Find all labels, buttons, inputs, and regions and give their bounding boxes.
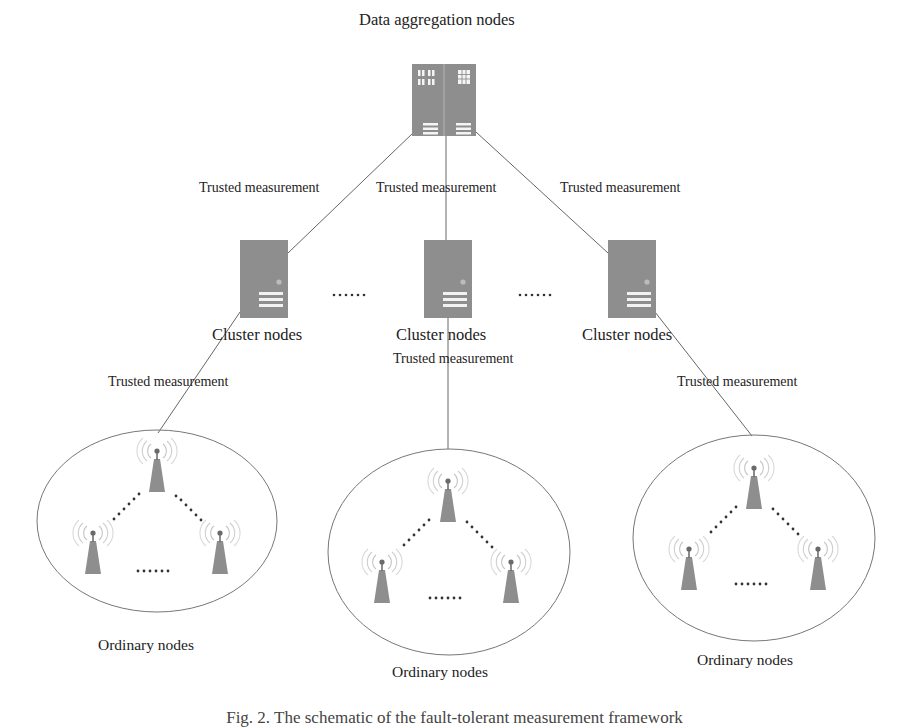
ordinary-label: Ordinary nodes — [697, 651, 793, 669]
tower-icon — [734, 455, 774, 509]
ordinary-label: Ordinary nodes — [392, 663, 488, 681]
cluster-node-icon — [608, 240, 656, 318]
edge-label: Trusted measurement — [376, 180, 496, 196]
cluster-label: Cluster nodes — [396, 325, 486, 345]
cluster-label: Cluster nodes — [212, 325, 302, 345]
edge-label: Trusted measurement — [199, 180, 319, 196]
figure-caption: Fig. 2. The schematic of the fault-toler… — [0, 708, 909, 728]
edge-label: Trusted measurement — [677, 374, 797, 390]
ordinary-nodes-group-3 — [669, 455, 838, 590]
tower-icon — [362, 549, 402, 603]
edge-label: Trusted measurement — [108, 374, 228, 390]
tower-icon — [73, 520, 113, 574]
tower-icon — [428, 468, 468, 522]
tower-icon — [137, 438, 177, 492]
cluster-node-icon — [424, 240, 472, 318]
ordinary-nodes-group-2 — [362, 468, 531, 603]
ordinary-nodes-group-1 — [73, 438, 240, 574]
tower-icon — [669, 536, 709, 590]
edge-label: Trusted measurement — [560, 180, 680, 196]
tower-icon — [200, 520, 240, 574]
tower-icon — [491, 549, 531, 603]
ordinary-label: Ordinary nodes — [98, 636, 194, 654]
edge-label: Trusted measurement — [393, 351, 513, 367]
tower-icon — [798, 536, 838, 590]
aggregator-node-icon — [412, 64, 476, 136]
cluster-node-icon — [240, 240, 288, 318]
cluster-label: Cluster nodes — [582, 325, 672, 345]
aggregator-label: Data aggregation nodes — [359, 10, 515, 30]
